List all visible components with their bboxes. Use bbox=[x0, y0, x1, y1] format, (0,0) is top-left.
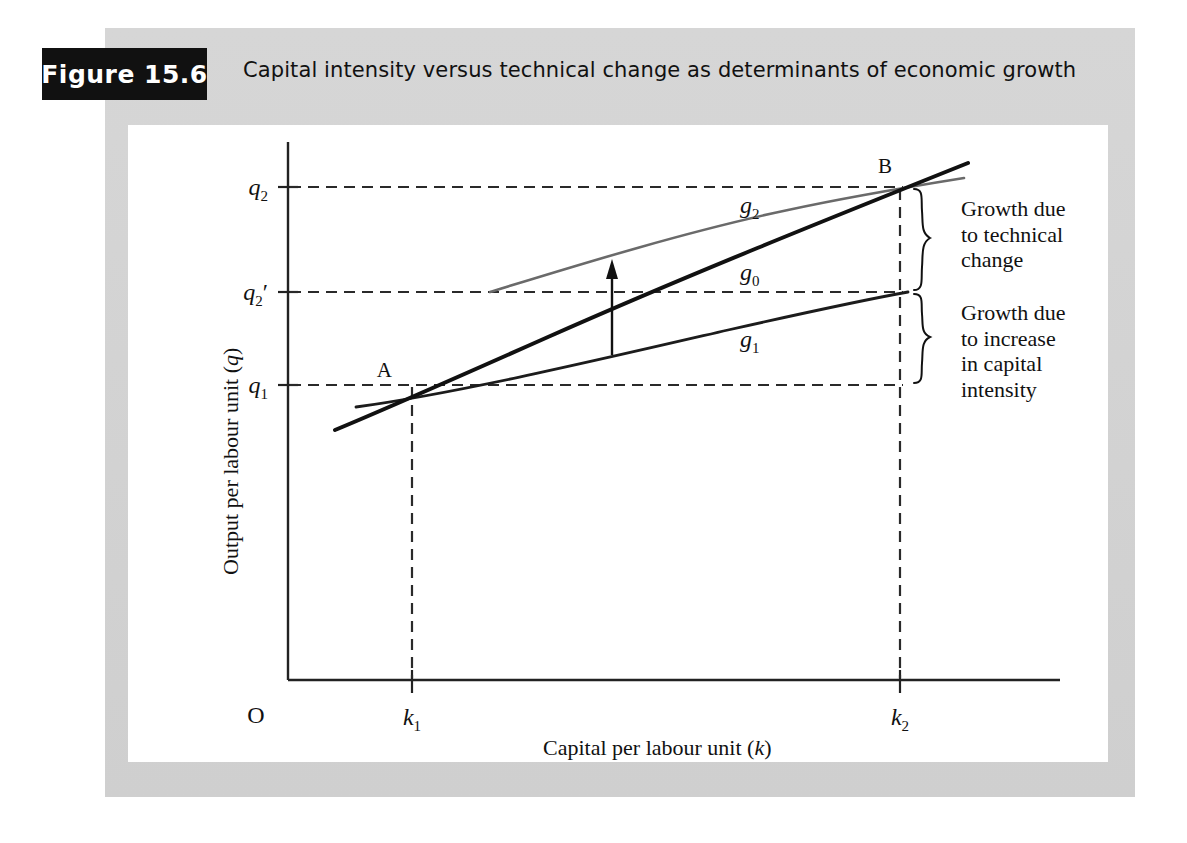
curve-label-g1: g1 bbox=[740, 326, 760, 356]
figure-number-badge: Figure 15.6 bbox=[42, 48, 207, 100]
point-label-A: A bbox=[377, 358, 393, 382]
y-axis-title: Output per labour unit (q) bbox=[218, 348, 244, 575]
curve-label-g2: g2 bbox=[740, 192, 760, 222]
x-axis-title: Capital per labour unit (k) bbox=[543, 735, 771, 761]
annotation-growth-capital-intensity: Growth due to increase in capital intens… bbox=[961, 300, 1065, 402]
x-tick-label-k1: k1 bbox=[403, 704, 421, 734]
annotation-line: to increase bbox=[961, 326, 1065, 352]
annotation-line: Growth due bbox=[961, 300, 1065, 326]
brace-capital-intensity bbox=[914, 294, 930, 383]
point-label-B: B bbox=[878, 154, 892, 178]
annotation-line: in capital bbox=[961, 351, 1065, 377]
curve-g1 bbox=[356, 292, 908, 407]
annotation-growth-technical-change: Growth due to technical change bbox=[961, 196, 1065, 273]
y-tick-label-q2-prime: q2′ bbox=[243, 279, 268, 309]
shift-arrow-head bbox=[606, 259, 618, 279]
annotation-line: Growth due bbox=[961, 196, 1065, 222]
figure-caption: Capital intensity versus technical chang… bbox=[243, 58, 1076, 82]
x-tick-label-k2: k2 bbox=[891, 704, 909, 734]
annotation-line: change bbox=[961, 247, 1065, 273]
figure-number-label: Figure 15.6 bbox=[41, 60, 208, 89]
y-tick-label-q1: q1 bbox=[249, 372, 269, 402]
curve-label-g0: g0 bbox=[740, 259, 760, 289]
annotation-line: to technical bbox=[961, 222, 1065, 248]
curve-g0 bbox=[335, 163, 968, 430]
origin-label: O bbox=[247, 702, 264, 728]
annotation-line: intensity bbox=[961, 377, 1065, 403]
brace-technical-change bbox=[914, 189, 930, 290]
y-tick-label-q2: q2 bbox=[249, 174, 269, 204]
